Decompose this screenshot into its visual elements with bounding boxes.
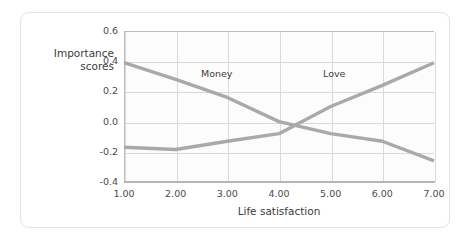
x-axis-title: Life satisfaction bbox=[124, 205, 434, 217]
series-line-money bbox=[124, 63, 434, 161]
chart-series-layer bbox=[0, 0, 469, 240]
series-label-money: Money bbox=[201, 68, 233, 79]
series-line-love bbox=[124, 63, 434, 150]
series-label-love: Love bbox=[323, 68, 345, 79]
